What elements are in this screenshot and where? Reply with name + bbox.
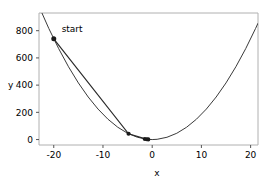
data-point-marker <box>51 36 56 41</box>
y-axis-label: y <box>8 80 14 90</box>
y-tick-label: 200 <box>16 108 33 118</box>
figure-background <box>0 0 272 184</box>
data-point-marker <box>126 132 130 136</box>
x-tick-label: 20 <box>245 150 257 160</box>
y-tick-label: 800 <box>16 26 33 36</box>
x-axis-label: x <box>154 168 160 178</box>
y-tick-label: 600 <box>16 53 33 63</box>
x-tick-label: 10 <box>196 150 208 160</box>
annotations: start <box>62 24 83 34</box>
x-tick-label: 0 <box>149 150 155 160</box>
data-point-marker <box>146 137 150 141</box>
y-tick-label: 400 <box>16 80 33 90</box>
figure: -20-1001020 0200400600800 start x y <box>0 0 272 184</box>
y-tick-label: 0 <box>27 135 33 145</box>
start-annotation-label: start <box>62 24 83 34</box>
x-tick-label: -10 <box>96 150 111 160</box>
x-tick-label: -20 <box>46 150 61 160</box>
parabola-gradient-descent-chart: -20-1001020 0200400600800 start x y <box>0 0 272 184</box>
